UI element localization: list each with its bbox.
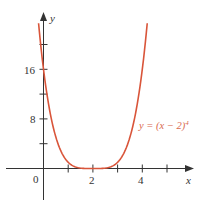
- y-axis-arrow-icon: [40, 12, 47, 21]
- plot-canvas: y x 0 2 4 8 16 y = (x − 2)4: [0, 0, 214, 210]
- chart-figure: y x 0 2 4 8 16 y = (x − 2)4: [0, 0, 214, 210]
- x-axis-label: x: [185, 174, 191, 186]
- x-tick-label-2: 2: [89, 174, 95, 186]
- equation-label: y = (x − 2)4: [138, 119, 189, 132]
- function-curve: [39, 23, 148, 168]
- equation-main: y = (x − 2): [138, 120, 186, 132]
- y-tick-label-8: 8: [30, 113, 36, 125]
- y-axis-label: y: [49, 12, 55, 24]
- equation-exponent: 4: [185, 119, 189, 127]
- origin-label: 0: [33, 173, 39, 185]
- y-tick-label-16: 16: [24, 64, 36, 76]
- x-axis-arrow-icon: [185, 165, 194, 172]
- x-tick-label-4: 4: [138, 174, 144, 186]
